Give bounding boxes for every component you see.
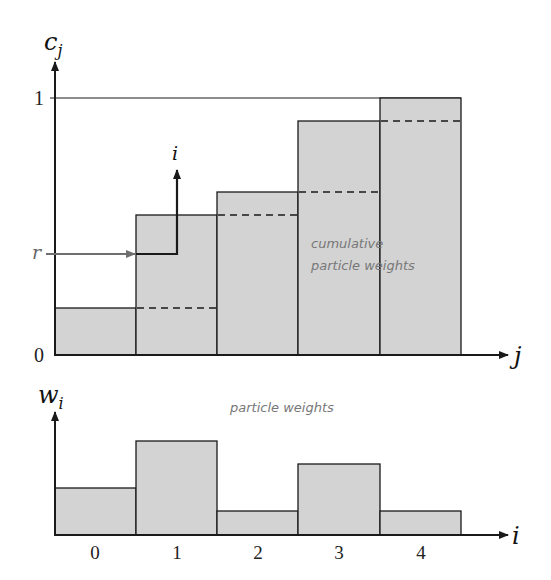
weight-bar-0 [55,488,136,535]
weight-bar-3 [298,464,380,535]
y-tick-one: 1 [34,87,44,109]
i-label-top: i [172,142,178,164]
weights-annotation: particle weights [229,400,334,415]
x-axis-label-j: j [509,342,522,370]
x-tick-3: 3 [334,542,344,563]
cumulative-bar-0 [55,308,136,355]
weights-chart: wi particle weights i 0 1 2 3 4 [38,381,520,563]
cumulative-annotation-line2: particle weights [310,258,415,273]
x-tick-2: 2 [253,542,263,563]
x-tick-0: 0 [90,542,100,563]
y-axis-label-cj: cj [44,28,62,60]
cumulative-bar-4 [380,98,461,355]
cumulative-annotation-line1: cumulative [311,236,383,251]
y-axis-label-wi: wi [38,381,64,413]
cumulative-chart: cj 1 0 r i j cumulative particle weights [32,28,522,370]
r-label: r [32,241,43,263]
weight-bar-2 [217,511,298,535]
x-tick-1: 1 [172,542,182,563]
weight-bar-1 [136,441,217,535]
cumulative-bar-2 [217,192,298,355]
weight-bar-4 [380,511,461,535]
resampling-diagram: cj 1 0 r i j cumulative particle weights… [0,0,551,580]
x-tick-4: 4 [416,542,426,563]
x-axis-label-i: i [512,522,520,550]
y-tick-zero: 0 [34,344,44,366]
